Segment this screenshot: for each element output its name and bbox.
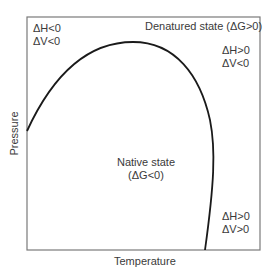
native-state-label: Native state (ΔG<0) — [108, 156, 184, 182]
delta-v-label: ΔV<0 — [33, 35, 61, 48]
y-axis-label: Pressure — [8, 106, 21, 162]
native-state-condition: (ΔG<0) — [108, 169, 184, 182]
delta-h-label: ΔH>0 — [222, 44, 250, 57]
phase-boundary-curve — [27, 42, 213, 250]
annotation-bottom-right: ΔH>0 ΔV>0 — [222, 210, 250, 236]
annotation-top-left: ΔH<0 ΔV<0 — [33, 22, 61, 48]
x-axis-label: Temperature — [114, 255, 176, 268]
delta-v-label: ΔV<0 — [222, 57, 250, 70]
native-state-title: Native state — [108, 156, 184, 169]
annotation-top-right: ΔH>0 ΔV<0 — [222, 44, 250, 70]
denatured-state-label: Denatured state (ΔG>0) — [145, 20, 262, 33]
delta-h-label: ΔH>0 — [222, 210, 250, 223]
delta-h-label: ΔH<0 — [33, 22, 61, 35]
delta-v-label: ΔV>0 — [222, 223, 250, 236]
